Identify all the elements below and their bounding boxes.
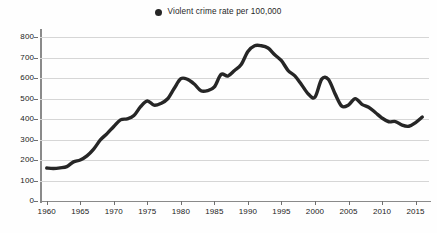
- y-tick-mark: [34, 140, 38, 141]
- y-tick-mark: [34, 58, 38, 59]
- x-tick-mark: [349, 201, 350, 205]
- series-violent-crime-rate: [40, 31, 429, 201]
- x-tick-mark: [315, 201, 316, 205]
- x-tick-mark: [416, 201, 417, 205]
- x-tick-label: 2015: [396, 208, 436, 216]
- x-tick-mark: [248, 201, 249, 205]
- x-tick-mark: [382, 201, 383, 205]
- x-axis-ticks: 1960196519701975198019851990199520002005…: [0, 201, 437, 231]
- y-tick-mark: [34, 181, 38, 182]
- series-path: [47, 45, 423, 168]
- legend-label: Violent crime rate per 100,000: [167, 8, 281, 16]
- chart-legend: Violent crime rate per 100,000: [0, 5, 437, 19]
- x-tick-mark: [181, 201, 182, 205]
- y-tick-mark: [34, 37, 38, 38]
- x-tick-mark: [114, 201, 115, 205]
- y-tick-mark: [34, 78, 38, 79]
- x-tick-mark: [281, 201, 282, 205]
- x-tick-mark: [80, 201, 81, 205]
- y-axis-tick-marks: [0, 0, 44, 233]
- y-tick-mark: [34, 160, 38, 161]
- x-tick-mark: [47, 201, 48, 205]
- plot-area: [40, 31, 429, 201]
- x-tick-mark: [147, 201, 148, 205]
- x-tick-mark: [214, 201, 215, 205]
- y-tick-mark: [34, 99, 38, 100]
- filled-circle-icon: [155, 9, 162, 16]
- violent-crime-rate-chart: Violent crime rate per 100,000 010020030…: [0, 0, 437, 233]
- y-tick-mark: [34, 119, 38, 120]
